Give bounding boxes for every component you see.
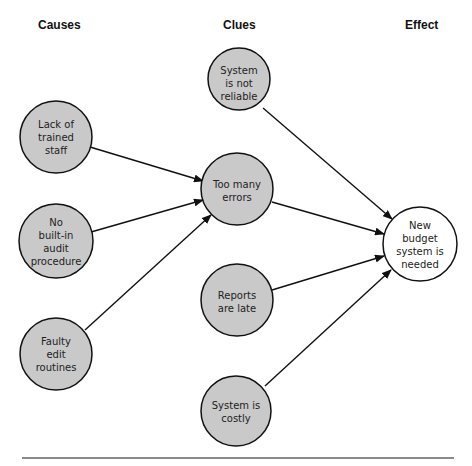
arrow-audit-to-errors	[91, 200, 203, 232]
cause-effect-diagram: Lack of trained staff No built-in audit …	[0, 0, 472, 466]
node-label: System	[220, 65, 257, 76]
node-label: costly	[221, 413, 251, 424]
node-label: reliable	[220, 91, 257, 102]
node-label: system is	[396, 246, 443, 257]
arrow-errors-to-effect	[272, 202, 384, 234]
arrow-costly-to-effect	[265, 270, 391, 386]
node-no-built-in-audit-procedure: No built-in audit procedure	[19, 204, 93, 278]
arrow-reliable-to-effect	[263, 108, 392, 219]
node-label: Faulty	[41, 336, 71, 347]
node-label: errors	[222, 192, 251, 203]
arrow-faulty-to-errors	[85, 215, 211, 330]
node-new-budget-system-is-needed: New budget system is needed	[383, 207, 457, 281]
node-label: procedure	[31, 256, 82, 267]
arrow-reports-to-effect	[272, 256, 384, 290]
node-label: System is	[212, 400, 260, 411]
node-label: No	[49, 217, 63, 228]
bottom-rule	[22, 457, 454, 459]
node-label: staff	[45, 145, 68, 156]
edges	[85, 108, 392, 386]
node-system-is-not-reliable: System is not reliable	[208, 48, 270, 110]
node-label: Too many	[212, 179, 261, 190]
node-label: built-in	[39, 230, 74, 241]
node-label: New	[409, 220, 431, 231]
node-faulty-edit-routines: Faulty edit routines	[20, 318, 92, 390]
node-label: edit	[46, 349, 65, 360]
node-system-is-costly: System is costly	[201, 376, 271, 446]
node-label: are late	[218, 303, 256, 314]
node-too-many-errors: Too many errors	[201, 153, 273, 225]
node-label: Reports	[218, 290, 256, 301]
node-label: trained	[38, 132, 74, 143]
node-label: is not	[225, 78, 253, 89]
node-label: budget	[402, 233, 438, 244]
node-label: needed	[401, 259, 439, 270]
arrow-lack-to-errors	[90, 147, 203, 181]
node-label: routines	[36, 362, 77, 373]
node-reports-are-late: Reports are late	[201, 264, 273, 336]
node-lack-of-trained-staff: Lack of trained staff	[20, 101, 92, 173]
node-label: audit	[43, 243, 69, 254]
node-label: Lack of	[38, 119, 74, 130]
